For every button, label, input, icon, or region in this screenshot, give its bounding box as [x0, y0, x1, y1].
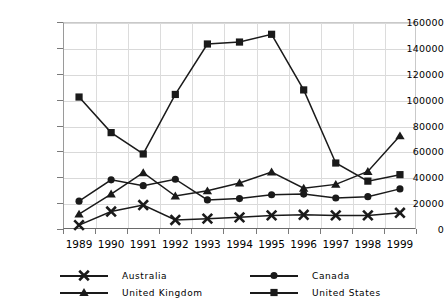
y-axis-tick-label: 120000	[386, 68, 444, 79]
y-axis-tick-label: 0	[386, 224, 444, 235]
chart-legend: AustraliaCanadaUnited KingdomUnited Stat…	[60, 268, 400, 302]
gridline-vertical	[192, 23, 193, 228]
x-axis-tick-mark	[320, 229, 321, 234]
legend-item-australia[interactable]: Australia	[60, 268, 167, 283]
y-axis-tick-mark	[57, 177, 63, 178]
x-axis-tick-mark	[223, 229, 224, 234]
data-point-triangle	[79, 288, 88, 296]
legend-marker-circle-icon	[250, 268, 298, 283]
line-chart: 0200004000060000800001000001200001400001…	[0, 0, 444, 307]
legend-marker-square-icon	[250, 285, 298, 300]
gridline-vertical	[321, 23, 322, 228]
x-axis-tick-mark	[288, 229, 289, 234]
legend-item-canada[interactable]: Canada	[250, 268, 350, 283]
y-axis-tick-mark	[57, 203, 63, 204]
gridline-vertical	[224, 23, 225, 228]
gridline-vertical	[96, 23, 97, 228]
x-axis-tick-mark	[191, 229, 192, 234]
x-axis-tick-mark	[63, 229, 64, 234]
x-axis-tick-mark	[159, 229, 160, 234]
x-axis-tick-label: 1999	[378, 238, 422, 250]
gridline-horizontal	[64, 178, 415, 179]
plot-area	[63, 22, 416, 229]
x-axis-tick-mark	[384, 229, 385, 234]
gridline-horizontal	[64, 49, 415, 50]
x-axis-tick-mark	[352, 229, 353, 234]
x-axis-tick-mark	[95, 229, 96, 234]
legend-item-united-kingdom[interactable]: United Kingdom	[60, 285, 203, 300]
y-axis-tick-mark	[57, 126, 63, 127]
legend-item-united-states[interactable]: United States	[250, 285, 381, 300]
y-axis-tick-label: 140000	[386, 42, 444, 53]
legend-label: Canada	[312, 271, 350, 281]
y-axis-tick-mark	[57, 151, 63, 152]
legend-marker-x-cross-icon	[60, 268, 108, 283]
gridline-horizontal	[64, 101, 415, 102]
data-point-x-cross	[79, 271, 89, 281]
y-axis-tick-label: 20000	[386, 198, 444, 209]
y-axis-tick-label: 160000	[386, 17, 444, 28]
gridline-vertical	[257, 23, 258, 228]
y-axis-tick-label: 60000	[386, 146, 444, 157]
gridline-horizontal	[64, 23, 415, 24]
data-point-square	[270, 289, 277, 296]
gridline-vertical	[128, 23, 129, 228]
gridline-horizontal	[64, 152, 415, 153]
y-axis-tick-mark	[57, 74, 63, 75]
gridline-horizontal	[64, 204, 415, 205]
y-axis-tick-label: 80000	[386, 120, 444, 131]
gridline-horizontal	[64, 127, 415, 128]
y-axis-tick-mark	[57, 22, 63, 23]
y-axis-tick-mark	[57, 100, 63, 101]
legend-label: Australia	[122, 271, 167, 281]
x-axis-tick-mark	[127, 229, 128, 234]
gridline-vertical	[160, 23, 161, 228]
legend-label: United Kingdom	[122, 288, 203, 298]
legend-label: United States	[312, 288, 381, 298]
gridline-horizontal	[64, 75, 415, 76]
data-point-circle	[270, 272, 277, 279]
gridline-vertical	[289, 23, 290, 228]
x-axis-tick-mark	[256, 229, 257, 234]
x-axis-tick-mark	[416, 229, 417, 234]
gridline-vertical	[353, 23, 354, 228]
y-axis-tick-mark	[57, 48, 63, 49]
y-axis-tick-label: 100000	[386, 94, 444, 105]
y-axis-tick-label: 40000	[386, 172, 444, 183]
legend-marker-triangle-icon	[60, 285, 108, 300]
